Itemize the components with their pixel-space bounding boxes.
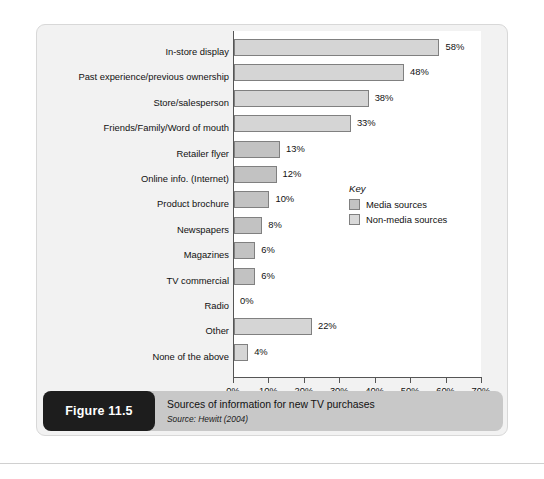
bar-value-label: 8%: [268, 219, 282, 230]
category-label: Radio: [43, 301, 229, 311]
category-label: Store/salesperson: [43, 98, 229, 108]
bar-row: 4%: [234, 342, 482, 364]
bar: [234, 217, 262, 234]
bar-row: 0%: [234, 291, 482, 313]
figure-caption-bar: Figure 11.5 Sources of information for n…: [43, 391, 503, 431]
bar: [234, 141, 280, 158]
bar-row: 22%: [234, 316, 482, 338]
x-tick-mark: [233, 378, 234, 383]
bar-value-label: 6%: [261, 244, 275, 255]
bar-row: 38%: [234, 88, 482, 110]
bar-value-label: 38%: [375, 92, 394, 103]
x-tick-mark: [339, 378, 340, 383]
page-divider: [0, 463, 544, 464]
category-label: Friends/Family/Word of mouth: [43, 123, 229, 133]
bar-value-label: 33%: [357, 117, 376, 128]
category-label: Other: [43, 326, 229, 336]
bar-value-label: 0%: [240, 295, 254, 306]
caption-source: Source: Hewitt (2004): [167, 414, 493, 424]
bar: [234, 115, 351, 132]
bar-value-label: 58%: [445, 41, 464, 52]
bar-value-label: 48%: [410, 66, 429, 77]
bar: [234, 39, 439, 56]
x-tick-mark: [375, 378, 376, 383]
bar-row: 33%: [234, 113, 482, 135]
bar-value-label: 12%: [283, 168, 302, 179]
category-axis-labels: In-store displayPast experience/previous…: [43, 37, 229, 367]
legend-item-nonmedia: Non-media sources: [349, 214, 479, 225]
figure-container: In-store displayPast experience/previous…: [36, 24, 508, 436]
figure-number-badge: Figure 11.5: [43, 391, 155, 431]
bar-value-label: 13%: [286, 143, 305, 154]
x-tick-mark: [481, 378, 482, 383]
bar-row: 6%: [234, 240, 482, 262]
category-label: In-store display: [43, 47, 229, 57]
bar-row: 13%: [234, 139, 482, 161]
x-tick-mark: [410, 378, 411, 383]
bar-chart: In-store displayPast experience/previous…: [37, 25, 509, 385]
bar: [234, 242, 255, 259]
bar-row: 6%: [234, 266, 482, 288]
category-label: Product brochure: [43, 199, 229, 209]
bar-row: 58%: [234, 37, 482, 59]
legend-swatch-media-icon: [349, 199, 360, 210]
bar: [234, 268, 255, 285]
bar: [234, 90, 369, 107]
category-label: TV commercial: [43, 276, 229, 286]
category-label: Retailer flyer: [43, 149, 229, 159]
bar-value-label: 22%: [318, 320, 337, 331]
caption-text-block: Sources of information for new TV purcha…: [167, 398, 493, 424]
bar: [234, 191, 269, 208]
category-label: Past experience/previous ownership: [43, 72, 229, 82]
legend-label-media: Media sources: [366, 199, 427, 210]
legend-item-media: Media sources: [349, 199, 479, 210]
category-label: Magazines: [43, 250, 229, 260]
bar-value-label: 6%: [261, 270, 275, 281]
x-tick-mark: [304, 378, 305, 383]
x-tick-mark: [268, 378, 269, 383]
category-label: None of the above: [43, 352, 229, 362]
legend-swatch-nonmedia-icon: [349, 214, 360, 225]
figure-number-label: Figure 11.5: [65, 404, 133, 418]
bar-value-label: 4%: [254, 346, 268, 357]
legend-label-nonmedia: Non-media sources: [366, 214, 447, 225]
legend-title: Key: [349, 183, 479, 194]
category-label: Newspapers: [43, 225, 229, 235]
bar-value-label: 10%: [275, 193, 294, 204]
bar: [234, 64, 404, 81]
bar: [234, 318, 312, 335]
caption-title: Sources of information for new TV purcha…: [167, 398, 493, 411]
bar: [234, 166, 277, 183]
bar-row: 48%: [234, 62, 482, 84]
chart-legend: Key Media sources Non-media sources: [349, 183, 479, 229]
x-tick-mark: [446, 378, 447, 383]
bar: [234, 344, 248, 361]
category-label: Online info. (Internet): [43, 174, 229, 184]
